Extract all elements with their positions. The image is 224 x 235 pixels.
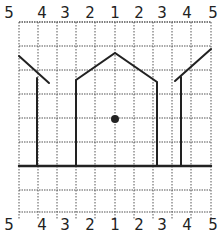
top-label: 5 [208, 4, 218, 22]
top-label: 4 [182, 4, 192, 22]
top-number-labels: 543212345 [4, 4, 218, 22]
bottom-label: 5 [4, 216, 14, 234]
bottom-label: 4 [37, 216, 47, 234]
right-roof-line [175, 49, 211, 81]
top-label: 3 [60, 4, 70, 22]
top-label: 3 [157, 4, 167, 22]
top-label: 4 [37, 4, 47, 22]
bottom-label: 4 [182, 216, 192, 234]
bottom-label: 2 [85, 216, 95, 234]
bottom-label: 3 [157, 216, 167, 234]
top-label: 1 [110, 4, 120, 22]
bottom-label: 3 [60, 216, 70, 234]
bottom-label: 5 [208, 216, 218, 234]
bottom-label: 1 [110, 216, 120, 234]
top-label: 5 [4, 4, 14, 22]
center-dot [111, 115, 119, 123]
bottom-label: 2 [134, 216, 144, 234]
bottom-number-labels: 543212345 [4, 216, 218, 234]
pattern-diagram: 543212345 543212345 [0, 0, 224, 235]
top-label: 2 [134, 4, 144, 22]
top-label: 2 [85, 4, 95, 22]
